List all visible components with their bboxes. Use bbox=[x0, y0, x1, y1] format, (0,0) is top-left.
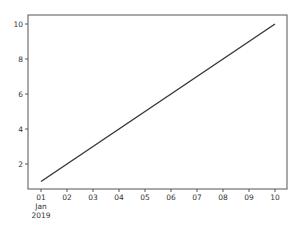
x-year-label: 2019 bbox=[31, 211, 50, 220]
x-tick-label: 07 bbox=[192, 193, 202, 202]
plot-area bbox=[41, 24, 275, 182]
y-axis: 246810 bbox=[13, 20, 28, 169]
y-tick-label: 10 bbox=[13, 20, 23, 29]
x-tick-label: 04 bbox=[114, 193, 124, 202]
line-chart: 246810 01020304050607080910Jan2019 bbox=[0, 0, 301, 230]
chart-canvas: 246810 01020304050607080910Jan2019 bbox=[0, 0, 301, 230]
x-tick-label: 05 bbox=[140, 193, 150, 202]
x-tick-label: 06 bbox=[166, 193, 176, 202]
x-axis: 01020304050607080910Jan2019 bbox=[31, 189, 280, 220]
series-line bbox=[41, 24, 275, 182]
x-tick-label: 03 bbox=[88, 193, 98, 202]
y-tick-label: 6 bbox=[18, 90, 23, 99]
x-tick-label: 02 bbox=[62, 193, 72, 202]
y-tick-label: 4 bbox=[18, 125, 23, 134]
x-tick-label: 01 bbox=[36, 193, 46, 202]
y-tick-label: 8 bbox=[18, 55, 23, 64]
x-tick-label: 09 bbox=[244, 193, 254, 202]
x-tick-label: 08 bbox=[218, 193, 228, 202]
x-tick-label: 10 bbox=[270, 193, 280, 202]
y-tick-label: 2 bbox=[18, 160, 23, 169]
axes-frame bbox=[28, 15, 287, 189]
